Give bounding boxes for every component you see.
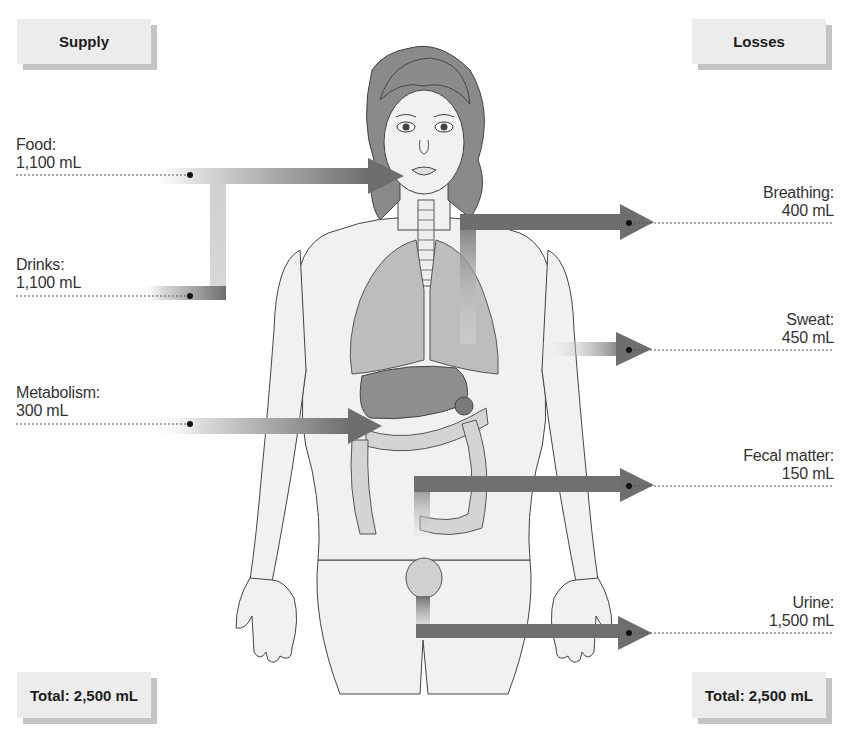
food-label: Food:: [16, 136, 81, 154]
sweat-arrow-shaft: [536, 342, 622, 356]
loss-item-fecal: Fecal matter: 150 mL: [743, 447, 834, 483]
fecal-value: 150 mL: [743, 465, 834, 483]
losses-total-label: Total: 2,500 mL: [705, 687, 813, 704]
breathing-arrow-shaft: [460, 214, 622, 230]
drinks-value: 1,100 mL: [16, 274, 81, 292]
drinks-label: Drinks:: [16, 256, 81, 274]
metabolism-arrow-shaft: [150, 418, 350, 434]
supply-total-label: Total: 2,500 mL: [30, 687, 138, 704]
supply-total: Total: 2,500 mL: [17, 672, 151, 718]
body-diagram: [0, 0, 856, 740]
drinks-arrow-horizontal: [140, 286, 226, 300]
losses-total: Total: 2,500 mL: [692, 672, 826, 718]
drinks-arrow-vertical: [210, 176, 226, 300]
breathing-arrow-head: [620, 204, 654, 240]
fecal-arrow-shaft: [414, 476, 622, 492]
breathing-label: Breathing:: [763, 184, 834, 202]
food-value: 1,100 mL: [16, 154, 81, 172]
loss-item-breathing: Breathing: 400 mL: [763, 184, 834, 220]
loss-item-urine: Urine: 1,500 mL: [769, 594, 834, 630]
breathing-value: 400 mL: [763, 202, 834, 220]
supply-item-metabolism: Metabolism: 300 mL: [16, 384, 100, 420]
metabolism-value: 300 mL: [16, 402, 100, 420]
sweat-arrow-head: [616, 332, 652, 366]
supply-item-food: Food: 1,100 mL: [16, 136, 81, 172]
fecal-label: Fecal matter:: [743, 447, 834, 465]
supply-item-drinks: Drinks: 1,100 mL: [16, 256, 81, 292]
bladder: [406, 558, 442, 598]
urine-arrow-shaft: [416, 624, 622, 638]
breathing-arrow-vertical: [460, 214, 476, 344]
urine-value: 1,500 mL: [769, 612, 834, 630]
loss-item-sweat: Sweat: 450 mL: [782, 311, 834, 347]
sweat-value: 450 mL: [782, 329, 834, 347]
fecal-arrow-head: [620, 468, 654, 502]
urine-label: Urine:: [769, 594, 834, 612]
food-arrow-shaft: [140, 168, 368, 184]
sweat-label: Sweat:: [782, 311, 834, 329]
metabolism-label: Metabolism:: [16, 384, 100, 402]
